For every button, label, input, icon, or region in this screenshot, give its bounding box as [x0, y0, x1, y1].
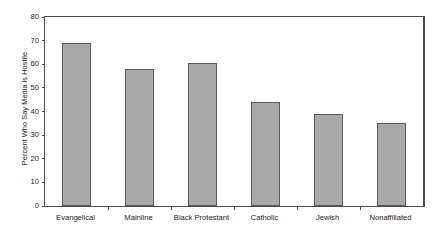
bar: [377, 123, 406, 206]
y-tick-mark: [42, 17, 45, 18]
y-tick-mark: [42, 111, 45, 112]
y-tick-mark: [42, 206, 45, 207]
x-axis-tick: [171, 206, 172, 210]
y-tick-label: 80: [31, 11, 39, 22]
x-axis-tick: [108, 206, 109, 210]
y-tick-label: 20: [31, 153, 39, 164]
bar: [125, 69, 154, 206]
x-axis-label: Evangelical: [56, 212, 95, 223]
y-tick-mark: [42, 158, 45, 159]
y-tick-mark: [42, 135, 45, 136]
y-tick-mark: [42, 40, 45, 41]
x-axis-label: Jewish: [316, 212, 339, 223]
x-axis-tick: [360, 206, 361, 210]
x-axis-tick: [297, 206, 298, 210]
x-axis-label: Mainline: [124, 212, 152, 223]
y-axis-title: Percent Who Say Media is Hostile: [20, 19, 29, 199]
bar-chart-figure: Percent Who Say Media is Hostile 0102030…: [0, 0, 435, 244]
x-axis-label: Catholic: [251, 212, 278, 223]
y-tick-label: 30: [31, 129, 39, 140]
plot-inner: 01020304050607080: [45, 17, 423, 206]
y-tick-mark: [42, 64, 45, 65]
bar: [251, 102, 280, 206]
y-tick-label: 10: [31, 176, 39, 187]
y-tick-label: 40: [31, 106, 39, 117]
bar: [188, 63, 217, 206]
y-tick-mark: [42, 87, 45, 88]
x-axis-label: Black Protestant: [174, 212, 229, 223]
x-axis-label: Nonaffiliated: [369, 212, 411, 223]
y-tick-label: 50: [31, 82, 39, 93]
x-axis-tick: [234, 206, 235, 210]
plot-area: 01020304050607080: [44, 16, 425, 207]
y-tick-label: 60: [31, 58, 39, 69]
bar: [314, 114, 343, 206]
y-tick-label: 70: [31, 35, 39, 46]
bar: [62, 43, 91, 206]
y-tick-mark: [42, 182, 45, 183]
y-tick-label: 0: [35, 200, 39, 211]
